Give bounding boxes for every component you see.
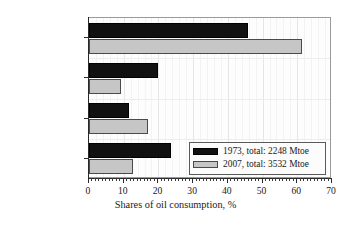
x-minor-tick <box>164 178 165 181</box>
x-tick-label-0: 0 <box>76 185 100 196</box>
legend: 1973, total: 2248 Mtoe 2007, total: 3532… <box>189 142 326 175</box>
x-major-tick <box>88 178 89 183</box>
x-minor-tick <box>244 178 245 181</box>
x-minor-tick <box>328 178 329 181</box>
x-tick-label-20: 20 <box>145 185 169 196</box>
x-minor-tick <box>324 178 325 181</box>
x-minor-tick <box>154 178 155 181</box>
x-minor-tick <box>241 178 242 181</box>
x-minor-tick <box>220 178 221 181</box>
x-minor-tick <box>150 178 151 181</box>
x-minor-tick <box>279 178 280 181</box>
x-minor-tick <box>185 178 186 181</box>
x-major-tick <box>227 178 228 183</box>
legend-item: 1973, total: 2248 Mtoe <box>193 145 322 158</box>
x-minor-tick <box>317 178 318 181</box>
x-minor-tick <box>95 178 96 181</box>
y-tick-mark <box>84 77 88 78</box>
x-minor-tick <box>237 178 238 181</box>
x-minor-tick <box>286 178 287 181</box>
x-minor-tick <box>223 178 224 181</box>
x-minor-tick <box>182 178 183 181</box>
x-minor-tick <box>265 178 266 181</box>
x-tick-label-10: 10 <box>111 185 135 196</box>
legend-item: 2007, total: 3532 Mtoe <box>193 158 322 171</box>
x-tick-label-60: 60 <box>284 185 308 196</box>
bar-transport-2007 <box>89 39 302 54</box>
x-minor-tick <box>133 178 134 181</box>
bar-chart: TransportIndustryNonenergy useOther sect… <box>0 0 351 229</box>
x-minor-tick <box>196 178 197 181</box>
x-minor-tick <box>234 178 235 181</box>
x-minor-tick <box>289 178 290 181</box>
x-minor-tick <box>310 178 311 181</box>
bar-nonenergy-use-2007 <box>89 119 148 134</box>
x-minor-tick <box>307 178 308 181</box>
x-minor-tick <box>119 178 120 181</box>
x-minor-tick <box>300 178 301 181</box>
legend-label-1973: 1973, total: 2248 Mtoe <box>223 146 309 157</box>
x-minor-tick <box>203 178 204 181</box>
x-major-tick <box>157 178 158 183</box>
x-minor-tick <box>230 178 231 181</box>
x-minor-tick <box>130 178 131 181</box>
x-minor-tick <box>293 178 294 181</box>
x-minor-tick <box>178 178 179 181</box>
x-minor-tick <box>116 178 117 181</box>
legend-swatch-2007-icon <box>193 161 218 168</box>
x-minor-tick <box>272 178 273 181</box>
x-minor-tick <box>109 178 110 181</box>
x-minor-tick <box>251 178 252 181</box>
x-minor-tick <box>168 178 169 181</box>
bar-industry-2007 <box>89 79 121 94</box>
x-minor-tick <box>248 178 249 181</box>
x-major-tick <box>331 178 332 183</box>
x-minor-tick <box>321 178 322 181</box>
bar-other-sectors-2007 <box>89 159 133 174</box>
x-minor-tick <box>137 178 138 181</box>
bar-nonenergy-use-1973 <box>89 103 129 118</box>
x-minor-tick <box>269 178 270 181</box>
x-minor-tick <box>258 178 259 181</box>
bar-industry-1973 <box>89 63 158 78</box>
x-minor-tick <box>140 178 141 181</box>
x-minor-tick <box>282 178 283 181</box>
x-minor-tick <box>206 178 207 181</box>
x-minor-tick <box>314 178 315 181</box>
bar-other-sectors-1973 <box>89 143 171 158</box>
x-minor-tick <box>210 178 211 181</box>
x-minor-tick <box>255 178 256 181</box>
x-tick-label-70: 70 <box>319 185 343 196</box>
x-minor-tick <box>147 178 148 181</box>
y-tick-mark <box>84 158 88 159</box>
x-major-tick <box>123 178 124 183</box>
x-tick-label-30: 30 <box>180 185 204 196</box>
bar-transport-1973 <box>89 23 248 38</box>
x-axis-title: Shares of oil consumption, % <box>0 199 351 211</box>
x-minor-tick <box>199 178 200 181</box>
x-minor-tick <box>275 178 276 181</box>
x-minor-tick <box>144 178 145 181</box>
y-axis-line <box>88 17 89 178</box>
x-tick-label-50: 50 <box>250 185 274 196</box>
x-minor-tick <box>112 178 113 181</box>
x-major-tick <box>192 178 193 183</box>
x-minor-tick <box>102 178 103 181</box>
y-tick-mark <box>84 118 88 119</box>
x-minor-tick <box>189 178 190 181</box>
x-tick-label-40: 40 <box>215 185 239 196</box>
legend-swatch-1973-icon <box>193 148 218 155</box>
x-minor-tick <box>161 178 162 181</box>
x-minor-tick <box>213 178 214 181</box>
x-minor-tick <box>105 178 106 181</box>
legend-label-2007: 2007, total: 3532 Mtoe <box>223 159 309 170</box>
x-major-tick <box>296 178 297 183</box>
x-minor-tick <box>216 178 217 181</box>
x-minor-tick <box>303 178 304 181</box>
x-minor-tick <box>171 178 172 181</box>
x-minor-tick <box>98 178 99 181</box>
x-minor-tick <box>91 178 92 181</box>
x-major-tick <box>262 178 263 183</box>
y-tick-mark <box>84 37 88 38</box>
x-minor-tick <box>175 178 176 181</box>
